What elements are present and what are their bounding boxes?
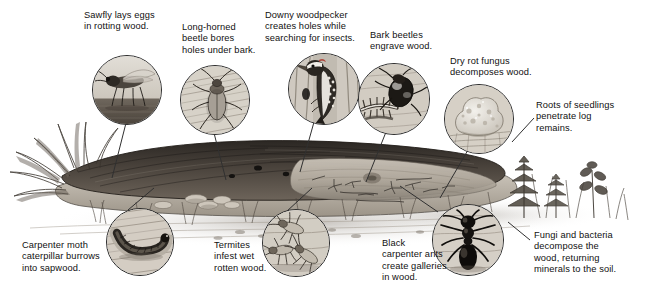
caption-seedling-roots: Roots of seedlings penetrate log remains… [536,100,640,134]
sawfly-inset [92,55,162,125]
caption-dry-rot-fungus: Dry rot fungus decomposes wood. [450,56,550,79]
caption-long-horned-beetle: Long-horned beetle bores holes under bar… [182,22,276,56]
longhorn-beetle-inset [180,65,250,135]
caption-sawfly: Sawfly lays eggs in rotting wood. [84,10,182,33]
caption-black-carpenter-ants: Black carpenter ants create galleries in… [382,238,470,283]
caption-termites: Termites infest wet rotten wood. [214,240,292,274]
caption-carpenter-moth: Carpenter moth caterpillar burrows into … [22,240,126,274]
woodpecker-inset [288,53,360,125]
bark-beetle-inset [358,63,430,135]
caption-fungi-and-bacteria: Fungi and bacteria decompose the wood, r… [534,230,650,275]
log-decomposition-figure: Sawfly lays eggs in rotting wood. Long-h… [0,0,657,305]
dry-rot-fungus-inset [444,84,514,154]
caption-bark-beetles: Bark beetles engrave wood. [370,30,456,53]
caption-downy-woodpecker: Downy woodpecker creates holes while sea… [265,10,377,44]
